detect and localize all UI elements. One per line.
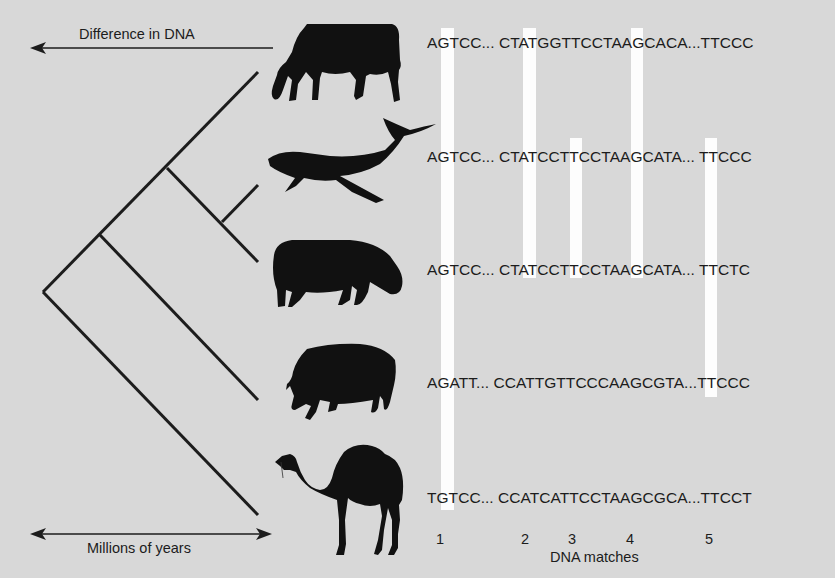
- sequence-hippo: AGTCC... CTATCCTTCCTAAGCATA... TTCTC: [427, 261, 750, 279]
- matches-axis-label: DNA matches: [550, 549, 639, 565]
- sequence-camel: TGTCC... CCATCATTCCTAAGCGCA...TTCCT: [427, 489, 752, 507]
- cow-icon: [272, 24, 401, 102]
- sequence-pig: AGATT... CCATTGTTCCCAAGCGTA...TTCCC: [427, 374, 750, 392]
- pig-icon: [286, 344, 396, 420]
- match-number-2: 2: [521, 531, 529, 547]
- sequence-whale: AGTCC... CTATCCTTCCTAAGCATA... TTCCC: [427, 148, 752, 166]
- time-arrow: [30, 528, 272, 540]
- match-number-4: 4: [626, 531, 634, 547]
- difference-axis-label: Difference in DNA: [79, 26, 195, 42]
- camel-icon: [275, 445, 403, 555]
- whale-icon: [268, 118, 436, 203]
- difference-arrow: [30, 42, 273, 54]
- match-number-1: 1: [436, 531, 444, 547]
- hippo-icon: [273, 240, 402, 307]
- sequence-cow: AGTCC... CTATGGTTCCTAAGCACA...TTCCC: [427, 34, 753, 52]
- match-number-3: 3: [568, 531, 576, 547]
- phylogenetic-tree: [43, 72, 258, 515]
- phylogeny-diagram: Difference in DNA Millions of years AGTC…: [0, 0, 835, 578]
- time-axis-label: Millions of years: [87, 540, 191, 556]
- match-number-5: 5: [705, 531, 713, 547]
